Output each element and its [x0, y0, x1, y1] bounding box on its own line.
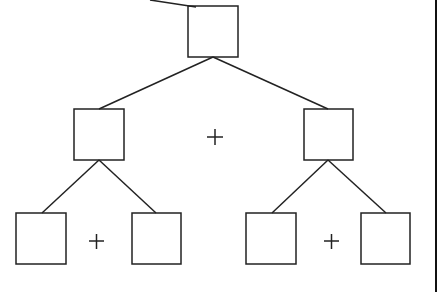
node-right-left [246, 213, 296, 264]
tree-diagram [0, 0, 438, 292]
node-left-left [16, 213, 66, 264]
node-right [304, 109, 353, 160]
plus-operator-top [207, 129, 223, 145]
edge-left-leftright [99, 160, 156, 213]
edge-root-left [99, 57, 213, 109]
node-left [74, 109, 124, 160]
plus-operator-right [324, 234, 339, 249]
edge-root-right [213, 57, 328, 109]
edge-right-rightleft [272, 160, 328, 213]
edge-right-rightright [328, 160, 386, 213]
node-root [188, 6, 238, 57]
plus-operator-left [89, 234, 104, 249]
node-left-right [132, 213, 181, 264]
node-right-right [361, 213, 410, 264]
edge-left-leftleft [42, 160, 99, 213]
